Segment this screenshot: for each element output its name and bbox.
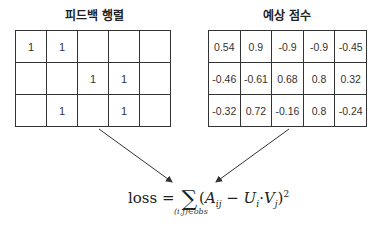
minus: − [221,189,243,207]
formula-equals: = [162,189,175,207]
left-arrow-icon [99,129,172,182]
formula-lhs: loss [128,189,157,207]
var-u: U [244,189,257,207]
loss-formula: loss = ∑(Aij − Ui·Vj)2 [128,183,289,209]
right-arrow-icon [216,129,289,182]
var-a: A [205,189,216,207]
exponent: 2 [283,189,289,199]
var-v: V [264,189,275,207]
sum-subscript: (i,j)∈obs [174,207,208,216]
